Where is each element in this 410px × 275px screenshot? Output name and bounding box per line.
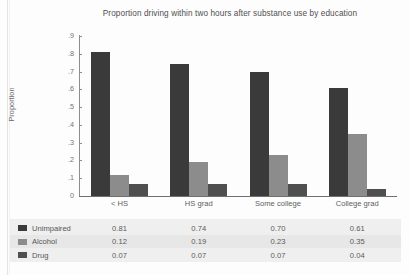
bar[interactable] — [189, 162, 208, 196]
scan-edge-line — [7, 0, 8, 275]
y-tick-label: .3 — [52, 139, 74, 146]
bar[interactable] — [110, 175, 129, 196]
y-tick-label-wrap: .4 — [51, 125, 79, 126]
bar[interactable] — [288, 184, 307, 196]
table-cell-value: 0.70 — [248, 224, 308, 233]
y-tick-label-wrap: .2 — [51, 160, 79, 161]
legend-value-table: Unimpaired0.810.740.700.61Alcohol0.120.1… — [10, 219, 401, 262]
table-cell-value: 0.07 — [248, 251, 308, 260]
bar[interactable] — [269, 155, 288, 196]
table-row[interactable]: Drug0.070.070.070.04 — [10, 248, 401, 261]
table-cell-value: 0.61 — [327, 224, 387, 233]
table-cell-value: 0.74 — [169, 224, 229, 233]
y-tick-label-wrap: 0 — [51, 196, 79, 197]
legend-series-label: Alcohol — [32, 237, 57, 246]
y-tick-label: .4 — [52, 121, 74, 128]
table-cell-value: 0.23 — [248, 237, 308, 246]
legend-series-label: Unimpaired — [32, 224, 71, 233]
table-cell-value: 0.12 — [90, 237, 150, 246]
y-tick-label-wrap: .3 — [51, 143, 79, 144]
bar-group — [239, 36, 318, 196]
table-cell-value: 0.81 — [90, 224, 150, 233]
y-tick-label: .2 — [52, 156, 74, 163]
table-row[interactable]: Unimpaired0.810.740.700.61 — [10, 221, 401, 234]
table-row[interactable]: Alcohol0.120.190.230.35 — [10, 235, 401, 248]
y-tick-label: .9 — [52, 32, 74, 39]
table-cell-value: 0.35 — [327, 237, 387, 246]
bar[interactable] — [129, 184, 148, 196]
legend-swatch-icon — [18, 252, 27, 258]
x-axis-label: College grad — [315, 199, 400, 208]
y-tick-label-wrap: .9 — [51, 36, 79, 37]
x-axis-label: < HS — [77, 199, 162, 208]
plot-area — [80, 36, 397, 196]
x-axis-label: HS grad — [156, 199, 241, 208]
bar-group — [159, 36, 238, 196]
legend-series-label: Drug — [32, 251, 48, 260]
table-cell-value: 0.07 — [169, 251, 229, 260]
bar-group — [80, 36, 159, 196]
legend-swatch-icon — [18, 225, 27, 231]
table-cell-value: 0.07 — [90, 251, 150, 260]
bar[interactable] — [367, 189, 386, 196]
y-tick-label: .6 — [52, 85, 74, 92]
bar[interactable] — [91, 52, 110, 196]
bar[interactable] — [170, 64, 189, 196]
y-tick-label: .5 — [52, 103, 74, 110]
legend-swatch-icon — [18, 239, 27, 245]
table-cell-value: 0.19 — [169, 237, 229, 246]
y-tick-label: .1 — [52, 174, 74, 181]
y-tick-label-wrap: .7 — [51, 72, 79, 73]
y-axis-label: Proportion — [7, 75, 16, 135]
bar[interactable] — [250, 72, 269, 196]
table-cell-value: 0.04 — [327, 251, 387, 260]
bar[interactable] — [329, 88, 348, 196]
y-tick-label: .7 — [52, 68, 74, 75]
bar[interactable] — [208, 184, 227, 196]
y-tick-label-wrap: .1 — [51, 178, 79, 179]
x-axis-label: Some college — [236, 199, 321, 208]
y-tick-label-wrap: .6 — [51, 89, 79, 90]
y-tick-label-wrap: .5 — [51, 107, 79, 108]
chart-page: Proportion driving within two hours afte… — [0, 0, 410, 275]
x-axis-line — [79, 196, 397, 197]
bar[interactable] — [348, 134, 367, 196]
y-tick-label-wrap: .8 — [51, 54, 79, 55]
y-tick-label: .8 — [52, 50, 74, 57]
chart-title: Proportion driving within two hours afte… — [62, 9, 398, 18]
y-tick-label: 0 — [52, 192, 74, 199]
bar-group — [318, 36, 397, 196]
